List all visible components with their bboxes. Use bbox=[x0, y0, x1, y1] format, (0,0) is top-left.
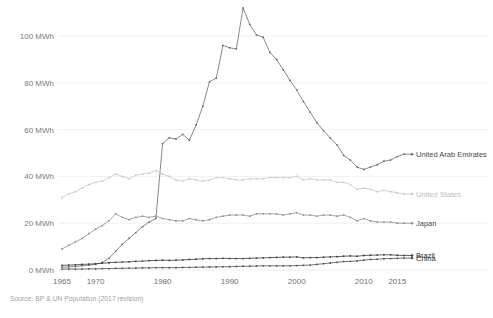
data-point bbox=[356, 220, 358, 222]
data-point bbox=[282, 214, 284, 216]
data-point bbox=[396, 257, 398, 259]
data-point bbox=[383, 190, 385, 192]
data-point bbox=[115, 213, 117, 215]
data-point bbox=[309, 257, 311, 259]
data-point bbox=[128, 261, 130, 263]
data-point bbox=[61, 266, 63, 268]
data-point bbox=[202, 180, 204, 182]
data-point bbox=[108, 177, 110, 179]
data-point bbox=[329, 262, 331, 264]
legend-marker bbox=[411, 254, 414, 257]
series-brazil bbox=[61, 254, 405, 266]
data-point bbox=[95, 268, 97, 270]
legend-item-united-states[interactable]: United States bbox=[404, 190, 461, 199]
data-point bbox=[195, 266, 197, 268]
data-point bbox=[121, 261, 123, 263]
series-path bbox=[62, 8, 404, 267]
data-point bbox=[88, 268, 90, 270]
data-point bbox=[189, 139, 191, 141]
data-point bbox=[303, 257, 305, 259]
data-point bbox=[135, 267, 137, 269]
data-point bbox=[75, 191, 77, 193]
data-point bbox=[282, 265, 284, 267]
data-point bbox=[142, 260, 144, 262]
data-point bbox=[370, 259, 372, 261]
legend-label: China bbox=[416, 254, 436, 263]
data-point bbox=[168, 219, 170, 221]
data-point bbox=[121, 243, 123, 245]
data-point bbox=[148, 267, 150, 269]
data-point bbox=[235, 266, 237, 268]
data-point bbox=[363, 187, 365, 189]
data-point bbox=[235, 258, 237, 260]
data-point bbox=[396, 222, 398, 224]
data-point bbox=[142, 215, 144, 217]
data-point bbox=[68, 264, 70, 266]
legend-label: United States bbox=[416, 190, 461, 199]
data-point bbox=[296, 256, 298, 258]
data-point bbox=[75, 264, 77, 266]
data-point bbox=[363, 259, 365, 261]
data-point bbox=[282, 256, 284, 258]
data-point bbox=[303, 101, 305, 103]
data-point bbox=[356, 260, 358, 262]
data-point bbox=[329, 179, 331, 181]
data-point bbox=[175, 179, 177, 181]
data-point bbox=[209, 179, 211, 181]
data-point bbox=[269, 265, 271, 267]
data-point bbox=[229, 214, 231, 216]
data-point bbox=[195, 219, 197, 221]
data-point bbox=[195, 124, 197, 126]
data-point bbox=[303, 264, 305, 266]
data-point bbox=[155, 170, 157, 172]
data-point bbox=[195, 179, 197, 181]
data-point bbox=[75, 241, 77, 243]
data-point bbox=[202, 220, 204, 222]
data-point bbox=[349, 159, 351, 161]
data-point bbox=[215, 177, 217, 179]
data-point bbox=[95, 263, 97, 265]
data-point bbox=[336, 256, 338, 258]
data-point bbox=[276, 265, 278, 267]
data-point bbox=[249, 215, 251, 217]
data-point bbox=[101, 180, 103, 182]
data-point bbox=[61, 268, 63, 270]
data-point bbox=[336, 215, 338, 217]
x-tick-label: 1970 bbox=[87, 277, 105, 286]
data-point bbox=[323, 179, 325, 181]
data-point bbox=[329, 256, 331, 258]
x-axis-tick-labels: 1965197019801990200020102015 bbox=[53, 277, 407, 286]
legend-item-japan[interactable]: Japan bbox=[404, 219, 436, 228]
data-point bbox=[175, 267, 177, 269]
data-point bbox=[343, 154, 345, 156]
data-point bbox=[142, 226, 144, 228]
data-point bbox=[349, 216, 351, 218]
data-point bbox=[343, 255, 345, 257]
data-point bbox=[222, 177, 224, 179]
y-tick-label: 40 MWh bbox=[24, 172, 54, 181]
data-point bbox=[148, 216, 150, 218]
data-point bbox=[215, 266, 217, 268]
data-point bbox=[155, 267, 157, 269]
data-point bbox=[128, 238, 130, 240]
legend-marker bbox=[411, 222, 414, 225]
data-point bbox=[81, 263, 83, 265]
data-point bbox=[262, 178, 264, 180]
data-point bbox=[215, 258, 217, 260]
data-point bbox=[329, 214, 331, 216]
data-point bbox=[323, 263, 325, 265]
data-point bbox=[101, 225, 103, 227]
legend-item-united-arab-emirates[interactable]: United Arab Emirates bbox=[404, 150, 487, 159]
data-point bbox=[269, 213, 271, 215]
data-point bbox=[376, 258, 378, 260]
data-point bbox=[229, 47, 231, 49]
y-axis-tick-labels: 0 MWh20 MWh40 MWh60 MWh80 MWh100 MWh bbox=[20, 32, 54, 275]
data-point bbox=[168, 267, 170, 269]
data-point bbox=[309, 111, 311, 113]
data-point bbox=[175, 138, 177, 140]
data-point bbox=[356, 166, 358, 168]
data-point bbox=[101, 262, 103, 264]
data-point bbox=[88, 233, 90, 235]
data-point bbox=[329, 137, 331, 139]
legend-marker bbox=[411, 193, 414, 196]
